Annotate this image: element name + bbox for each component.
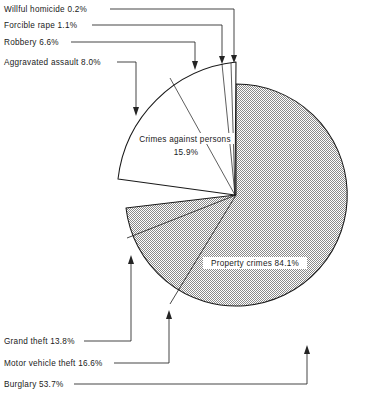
- arrowhead-robbery: [192, 61, 198, 70]
- leader-willful-homicide: [110, 9, 234, 56]
- leader-motor-vehicle-theft: [114, 318, 169, 363]
- inner-label-property-combined: Property crimes 84.1%: [211, 259, 299, 268]
- inner-label-property-crimes: Property crimes 84.1%: [203, 257, 307, 269]
- inner-label-persons-name: Crimes against persons: [139, 135, 231, 144]
- leader-aggravated-assault: [117, 62, 136, 108]
- arrowhead-aggravated-assault: [133, 107, 139, 116]
- arrowhead-motor-vehicle-theft: [166, 310, 172, 319]
- pie-chart-canvas: Willful homicide 0.2% Forcible rape 1.1%…: [0, 0, 379, 395]
- arrowhead-burglary: [304, 345, 310, 354]
- label-robbery: Robbery 6.6%: [4, 38, 59, 47]
- arrowhead-grand-theft: [128, 255, 134, 264]
- arrowhead-forcible-rape: [219, 56, 225, 64]
- label-willful-homicide: Willful homicide 0.2%: [4, 5, 87, 14]
- label-burglary: Burglary 53.7%: [4, 380, 63, 389]
- label-aggravated-assault: Aggravated assault 8.0%: [4, 58, 101, 67]
- leader-burglary: [74, 353, 307, 384]
- callout-willful-homicide: Willful homicide 0.2%: [4, 5, 237, 63]
- callout-aggravated-assault: Aggravated assault 8.0%: [4, 58, 139, 116]
- label-motor-vehicle-theft: Motor vehicle theft 16.6%: [4, 359, 103, 368]
- inner-label-persons-value: 15.9%: [174, 148, 198, 157]
- leader-grand-theft: [84, 263, 131, 341]
- leader-forcible-rape: [92, 25, 222, 57]
- label-grand-theft: Grand theft 13.8%: [4, 337, 75, 346]
- callout-grand-theft: Grand theft 13.8%: [4, 255, 134, 346]
- label-forcible-rape: Forcible rape 1.1%: [4, 21, 77, 30]
- pie-chart-figure: Willful homicide 0.2% Forcible rape 1.1%…: [0, 0, 379, 395]
